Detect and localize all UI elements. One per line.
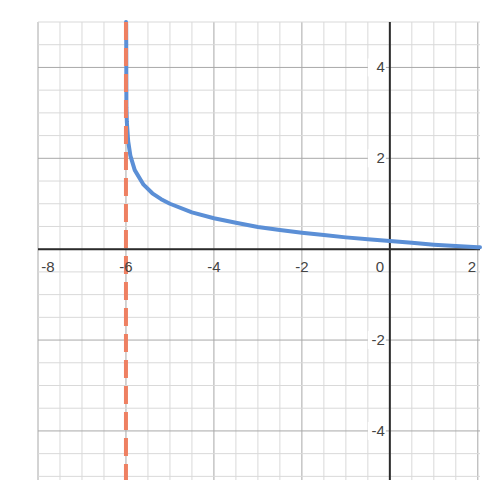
y-tick-label: 4 — [376, 58, 384, 75]
y-tick-label: -4 — [371, 422, 384, 439]
series — [126, 22, 480, 480]
graph: -8-6-4-202-4-224 — [0, 0, 503, 482]
y-tick-label: 2 — [376, 149, 384, 166]
x-tick-label: -4 — [207, 258, 220, 275]
curve-line — [126, 22, 480, 247]
x-tick-label: 0 — [376, 258, 384, 275]
x-tick-label: -2 — [295, 258, 308, 275]
y-tick-label: -2 — [371, 331, 384, 348]
x-tick-label: 2 — [468, 258, 476, 275]
x-tick-label: -6 — [119, 258, 132, 275]
x-tick-label: -8 — [41, 258, 54, 275]
grid — [38, 22, 480, 480]
